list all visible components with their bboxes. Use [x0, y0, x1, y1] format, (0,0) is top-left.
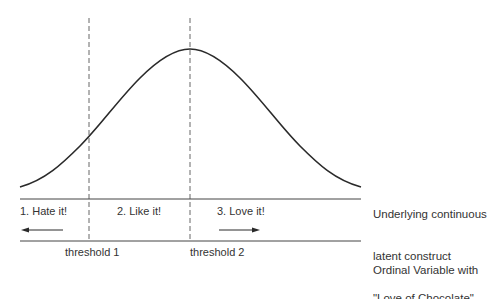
ordinal-variable-annotation: Ordinal Variable with 3 levels "How much… [373, 235, 490, 299]
arrow-right-icon [219, 228, 260, 233]
latent-annotation-line-1: Underlying continuous [373, 207, 487, 221]
category-label-2: 2. Like it! [117, 205, 161, 218]
arrow-left-icon [21, 228, 63, 233]
category-label-1: 1. Hate it! [20, 205, 67, 218]
category-label-3: 3. Love it! [217, 205, 265, 218]
threshold-2-label: threshold 2 [190, 246, 244, 259]
threshold-1-label: threshold 1 [65, 246, 119, 259]
ordinal-annotation-line-1: Ordinal Variable with [373, 263, 490, 277]
